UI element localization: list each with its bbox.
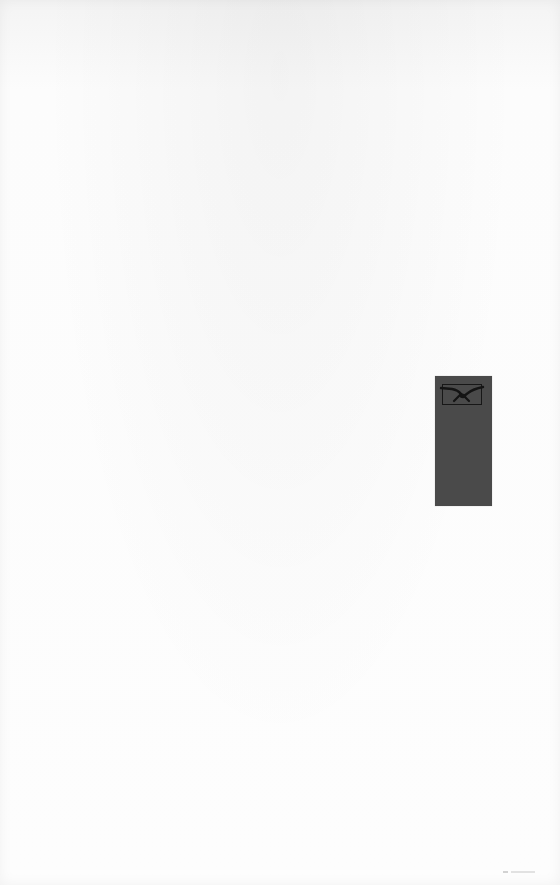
emblem-frame — [442, 384, 482, 405]
gray-tab-marker — [435, 376, 492, 506]
footer-mark — [511, 871, 535, 873]
winged-emblem-icon — [439, 382, 485, 408]
blank-page — [0, 0, 560, 885]
